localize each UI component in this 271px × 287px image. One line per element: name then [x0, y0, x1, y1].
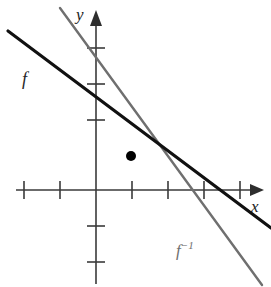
intersection-point: [126, 151, 136, 161]
y-axis-arrowhead: [90, 10, 102, 26]
f-curve-label: f: [22, 70, 27, 88]
coordinate-plane-svg: [0, 0, 271, 287]
graph-figure: y x f f−1: [0, 0, 271, 287]
x-axis-label: x: [251, 198, 259, 215]
f-inverse-curve-label: f−1: [176, 240, 194, 259]
y-axis-label: y: [76, 6, 84, 23]
x-axis-arrowhead: [250, 184, 264, 196]
f-line: [8, 31, 271, 228]
f-inverse-exponent: −1: [181, 239, 194, 251]
